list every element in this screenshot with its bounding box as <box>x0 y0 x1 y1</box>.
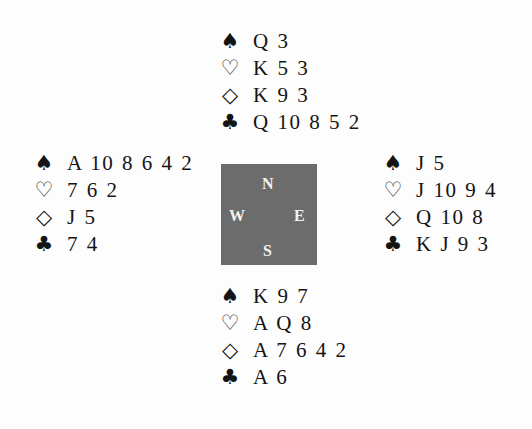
south-clubs-row: ♣ A 6 <box>219 364 288 391</box>
compass-box: N W E S <box>221 164 317 265</box>
spade-icon: ♠ <box>219 286 241 307</box>
club-icon: ♣ <box>33 234 55 255</box>
south-hearts-row: ♡ A Q 8 <box>219 310 313 337</box>
spade-icon: ♠ <box>219 31 241 52</box>
heart-icon: ♡ <box>33 180 55 201</box>
west-diamonds-row: ◇ J 5 <box>33 204 96 231</box>
north-diamonds-row: ◇ K 9 3 <box>219 82 309 109</box>
spade-icon: ♠ <box>33 153 55 174</box>
west-spades: A 10 8 6 4 2 <box>67 153 193 174</box>
north-clubs: Q 10 8 5 2 <box>253 112 361 133</box>
heart-icon: ♡ <box>219 313 241 334</box>
south-spades-row: ♠ K 9 7 <box>219 283 309 310</box>
north-clubs-row: ♣ Q 10 8 5 2 <box>219 109 361 136</box>
east-clubs: K J 9 3 <box>416 234 490 255</box>
spade-icon: ♠ <box>382 153 404 174</box>
north-hearts: K 5 3 <box>253 58 309 79</box>
north-diamonds: K 9 3 <box>253 85 309 106</box>
north-spades-row: ♠ Q 3 <box>219 28 289 55</box>
west-clubs: 7 4 <box>67 234 99 255</box>
diamond-icon: ◇ <box>382 207 404 228</box>
club-icon: ♣ <box>219 112 241 133</box>
diamond-icon: ◇ <box>219 340 241 361</box>
compass-west: W <box>229 208 245 224</box>
compass-east: E <box>294 208 305 224</box>
east-clubs-row: ♣ K J 9 3 <box>382 231 490 258</box>
south-diamonds-row: ◇ A 7 6 4 2 <box>219 337 348 364</box>
club-icon: ♣ <box>382 234 404 255</box>
west-diamonds: J 5 <box>67 207 96 228</box>
east-spades-row: ♠ J 5 <box>382 150 445 177</box>
diamond-icon: ◇ <box>219 85 241 106</box>
east-spades: J 5 <box>416 153 445 174</box>
west-hearts: 7 6 2 <box>67 180 119 201</box>
north-spades: Q 3 <box>253 31 289 52</box>
compass-south: S <box>263 243 272 259</box>
east-diamonds: Q 10 8 <box>416 207 484 228</box>
west-spades-row: ♠ A 10 8 6 4 2 <box>33 150 193 177</box>
diamond-icon: ◇ <box>33 207 55 228</box>
east-hearts-row: ♡ J 10 9 4 <box>382 177 497 204</box>
heart-icon: ♡ <box>219 58 241 79</box>
south-clubs: A 6 <box>253 367 288 388</box>
north-hearts-row: ♡ K 5 3 <box>219 55 309 82</box>
south-diamonds: A 7 6 4 2 <box>253 340 348 361</box>
west-hearts-row: ♡ 7 6 2 <box>33 177 119 204</box>
east-diamonds-row: ◇ Q 10 8 <box>382 204 484 231</box>
heart-icon: ♡ <box>382 180 404 201</box>
east-hearts: J 10 9 4 <box>416 180 497 201</box>
compass-north: N <box>262 176 274 192</box>
club-icon: ♣ <box>219 367 241 388</box>
south-spades: K 9 7 <box>253 286 309 307</box>
west-clubs-row: ♣ 7 4 <box>33 231 99 258</box>
south-hearts: A Q 8 <box>253 313 313 334</box>
